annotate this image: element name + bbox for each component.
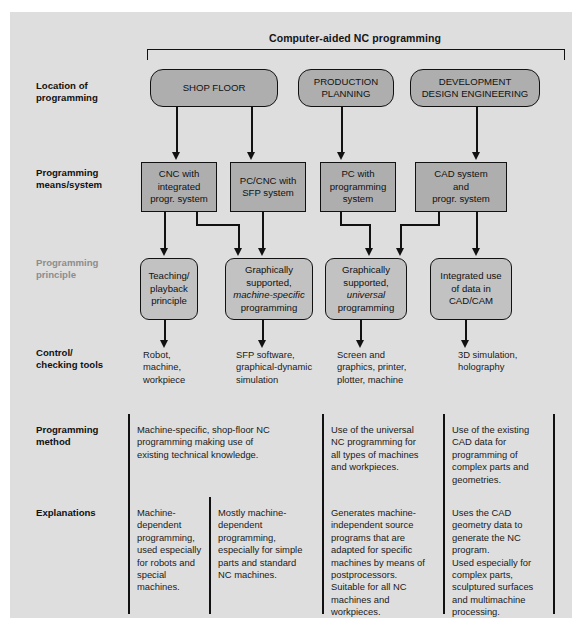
connector-graphical-to-control <box>262 320 264 342</box>
connector-cnc-to-teaching <box>164 212 166 250</box>
principle-line-2: playback <box>150 283 188 294</box>
connector-integrated-to-control <box>465 320 467 342</box>
control-tool-cell-sfp: SFP software,graphical-dynamicsimulation <box>236 349 341 386</box>
principle-box-integrated-cadcam[interactable]: Integrated use of data in CAD/CAM <box>430 258 512 320</box>
diagram-panel: Computer-aided NC programming Location o… <box>10 12 572 618</box>
means-box-pc-programming[interactable]: PC withprogrammingsystem <box>320 162 396 212</box>
connector-shopfloor-to-cnc <box>176 107 178 154</box>
principle-line-2: supported, <box>246 277 291 288</box>
connector-pccnc-to-graphical <box>262 212 264 250</box>
principle-line-3: programming <box>241 302 298 313</box>
connector-cnc-to-graphical-drop <box>238 224 240 250</box>
explanation-cell-machine-dependent: Machine-dependentprogramming,used especi… <box>137 507 207 594</box>
scope-bracket <box>147 49 565 60</box>
principle-line-2: of data in <box>451 283 490 294</box>
connector-cad-to-universal-elbow <box>400 224 440 226</box>
principle-line-italic: universal <box>347 289 385 300</box>
arrowhead-shopfloor-to-pccnc <box>247 152 255 160</box>
principle-box-graphical-machine-specific[interactable]: Graphically supported, machine-specific … <box>225 258 313 320</box>
connector-pc-to-universal-drop <box>369 224 371 250</box>
means-box-pccnc-sfp[interactable]: PC/CNC withSFP system <box>230 162 306 212</box>
connector-shopfloor-to-pccnc <box>251 107 253 154</box>
connector-cad-to-integrated <box>476 212 478 250</box>
connector-universal-to-control <box>360 320 362 342</box>
row-label-location: Location ofprogramming <box>36 80 144 105</box>
method-cell-cad: Use of the existingCAD data forprogrammi… <box>452 424 552 486</box>
arrowhead-production-to-pc <box>337 152 345 160</box>
principle-line-3: programming <box>338 302 395 313</box>
connector-cad-to-universal-drop <box>400 224 402 250</box>
control-tool-cell-robot: Robot,machine,workpiece <box>143 349 225 386</box>
table-divider-explanations-split <box>209 497 211 614</box>
row-label-programming-principle: Programmingprinciple <box>36 257 144 282</box>
row-label-programming-means: Programmingmeans/system <box>36 167 144 192</box>
arrowhead-shopfloor-to-cnc <box>172 152 180 160</box>
arrowhead-cnc-to-graphical <box>234 248 242 256</box>
principle-line-3: principle <box>151 295 187 306</box>
arrowhead-cad-to-integrated <box>472 248 480 256</box>
method-cell-universal: Use of the universalNC programming foral… <box>331 424 439 474</box>
control-tool-cell-3d: 3D simulation,holography <box>458 349 568 374</box>
arrowhead-development-to-cad <box>472 152 480 160</box>
explanation-cell-machine-independent: Generates machine-independent sourceprog… <box>331 507 443 619</box>
principle-line-1: Graphically <box>342 264 390 275</box>
page-title: Computer-aided NC programming <box>147 32 563 44</box>
arrowhead-integrated-to-control <box>461 340 469 348</box>
arrowhead-pc-to-universal <box>365 248 373 256</box>
arrowhead-graphical-to-control <box>258 340 266 348</box>
location-box-shop-floor[interactable]: SHOP FLOOR <box>150 69 278 107</box>
table-divider-3 <box>443 414 445 614</box>
method-cell-shopfloor: Machine-specific, shop-floor NCprogrammi… <box>137 424 317 461</box>
row-label-control-tools: Control/checking tools <box>36 347 144 372</box>
control-tool-cell-screen: Screen andgraphics, printer,plotter, mac… <box>337 349 447 386</box>
means-box-cad-system[interactable]: CAD systemandprogr. system <box>415 162 507 212</box>
connector-pc-to-universal-elbow <box>340 224 370 226</box>
connector-production-to-pc <box>341 107 343 154</box>
explanation-cell-mostly-machine-dependent: Mostly machine-dependentprogramming,espe… <box>218 507 320 581</box>
explanation-cell-cad-geometry: Uses the CADgeometry data togenerate the… <box>452 507 556 619</box>
arrowhead-pccnc-to-graphical <box>258 248 266 256</box>
connector-development-to-cad <box>476 107 478 154</box>
means-box-cnc-integrated[interactable]: CNC withintegratedprogr. system <box>141 162 217 212</box>
connector-cnc-to-graphical-elbow <box>196 224 239 226</box>
location-box-production-planning[interactable]: PRODUCTIONPLANNING <box>298 69 394 107</box>
arrowhead-cnc-to-teaching <box>160 248 168 256</box>
principle-line-italic: machine-specific <box>233 289 304 300</box>
arrowhead-cad-to-universal <box>396 248 404 256</box>
table-divider-1 <box>128 414 130 614</box>
principle-box-graphical-universal[interactable]: Graphically supported, universal program… <box>325 258 407 320</box>
principle-line-2: supported, <box>343 277 388 288</box>
connector-teaching-to-control <box>164 320 166 342</box>
arrowhead-universal-to-control <box>356 340 364 348</box>
principle-box-teaching-playback[interactable]: Teaching/ playback principle <box>140 258 198 320</box>
principle-line-1: Teaching/ <box>148 270 189 281</box>
table-divider-2 <box>322 414 324 614</box>
principle-line-3: CAD/CAM <box>449 295 493 306</box>
arrowhead-teaching-to-control <box>160 340 168 348</box>
principle-line-1: Integrated use <box>440 270 501 281</box>
principle-line-1: Graphically <box>245 264 293 275</box>
location-box-development-design-engineering[interactable]: DEVELOPMENTDESIGN ENGINEERING <box>410 69 540 107</box>
